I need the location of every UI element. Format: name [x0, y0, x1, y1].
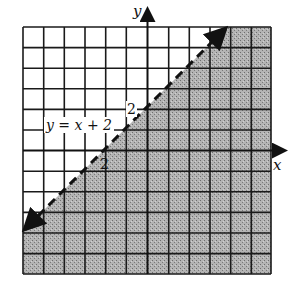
- x-axis-label: x: [273, 156, 281, 174]
- graph-plot: [0, 0, 293, 292]
- y-tick-label: 2: [126, 101, 137, 117]
- y-axis-label: y: [133, 2, 141, 20]
- x-tick-label: 2: [100, 156, 109, 172]
- equation-label: y = x + 2: [44, 117, 114, 133]
